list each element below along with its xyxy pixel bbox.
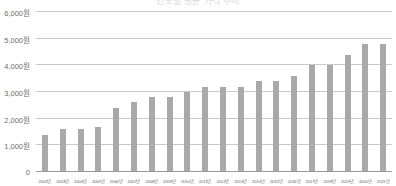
y-axis-tick-label: 0 [26,168,30,177]
y-axis-tick-label: 6,000원 [4,7,30,18]
y-axis-tick-label: 1,000원 [4,140,30,151]
x-axis-tick-label: 2016년 [288,178,301,184]
x-axis-tick-label: 2018년 [323,178,336,184]
bar [131,102,137,171]
x-axis-tick-label: 2020년 [359,178,372,184]
bar [256,81,262,171]
bar-series [36,12,392,172]
bar-chart: 연도별 평균 가격 추이 01,000원2,000원3,000원4,000원5,… [0,0,396,186]
x-axis-tick-label: 2012년 [216,178,229,184]
bar [149,97,155,171]
x-axis-line [36,171,392,172]
x-axis-tick-label: 2003년 [56,178,69,184]
chart-title: 연도별 평균 가격 추이 [0,0,396,6]
x-axis-tick-label: 2010년 [181,178,194,184]
x-axis-tick-label: 2015년 [270,178,283,184]
x-axis-tick-label: 2013년 [234,178,247,184]
bar [60,129,66,171]
bar [273,81,279,171]
bar [95,127,101,171]
bar [42,135,48,171]
y-axis-labels: 01,000원2,000원3,000원4,000원5,000원6,000원 [0,12,34,172]
x-axis-tick-label: 2008년 [145,178,158,184]
x-axis-tick-label: 2004년 [74,178,87,184]
y-axis-tick-label: 4,000원 [4,60,30,71]
x-axis-tick-label: 2007년 [127,178,140,184]
bar [309,65,315,171]
x-axis-tick-label: 2009년 [163,178,176,184]
bar [78,129,84,171]
plot-area [36,12,392,172]
bar [220,87,226,171]
x-axis-tick-label: 2002년 [38,178,51,184]
x-axis-tick-label: 2011년 [199,178,212,184]
bar [113,108,119,171]
bar [380,44,386,171]
x-axis-tick-label: 2017년 [305,178,318,184]
x-axis-tick-label: 2005년 [92,178,105,184]
x-axis-tick-label: 2006년 [110,178,123,184]
bar [184,92,190,171]
bar [238,87,244,171]
bar [291,76,297,171]
x-axis-tick-label: 2019년 [341,178,354,184]
y-axis-tick-label: 5,000원 [4,33,30,44]
x-axis-tick-label: 2021년 [377,178,390,184]
x-axis-labels: 2002년2003년2004년2005년2006년2007년2008년2009년… [36,173,392,186]
y-axis-tick-label: 3,000원 [4,87,30,98]
y-axis-tick-label: 2,000원 [4,113,30,124]
x-axis-tick-label: 2014년 [252,178,265,184]
bar [327,65,333,171]
bar [362,44,368,171]
bar [202,87,208,171]
bar [345,55,351,171]
bar [167,97,173,171]
